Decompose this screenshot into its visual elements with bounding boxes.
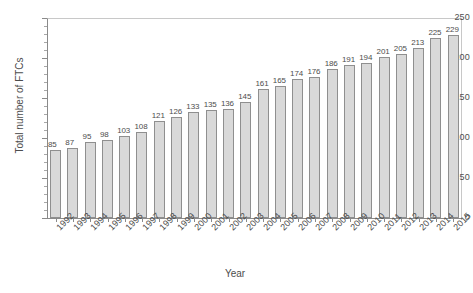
bar-value-label: 108 (134, 123, 147, 131)
bar-value-label: 174 (290, 70, 303, 78)
bar[interactable] (344, 65, 355, 218)
bar-value-label: 165 (273, 77, 286, 85)
bar-value-label: 126 (169, 108, 182, 116)
bar-value-label: 121 (152, 112, 165, 120)
bar-group[interactable]: 201 (376, 18, 393, 218)
bar-value-label: 213 (411, 39, 424, 47)
bar-value-label: 136 (221, 100, 234, 108)
x-axis-title: Year (0, 268, 470, 279)
bar[interactable] (413, 48, 424, 218)
bar-group[interactable]: 98 (99, 18, 116, 218)
bar[interactable] (223, 109, 234, 218)
bar-value-label: 225 (428, 29, 441, 37)
bar[interactable] (171, 117, 182, 218)
bar-group[interactable]: 121 (151, 18, 168, 218)
bar-group[interactable]: 136 (220, 18, 237, 218)
bar-value-label: 191 (342, 56, 355, 64)
bar[interactable] (275, 86, 286, 218)
y-axis-title: Total number of FTCs (14, 16, 25, 196)
bar[interactable] (102, 140, 113, 218)
bar[interactable] (240, 102, 251, 218)
bar[interactable] (430, 38, 441, 218)
bar[interactable] (136, 132, 147, 218)
bar[interactable] (206, 110, 217, 218)
bar-value-label: 85 (48, 141, 57, 149)
bar-value-label: 87 (65, 139, 74, 147)
bar[interactable] (188, 112, 199, 218)
bar[interactable] (154, 121, 165, 218)
bar-value-label: 186 (325, 60, 338, 68)
bar-value-label: 194 (359, 54, 372, 62)
bar-value-label: 176 (307, 68, 320, 76)
bar-group[interactable]: 135 (203, 18, 220, 218)
bar-group[interactable]: 174 (289, 18, 306, 218)
bar[interactable] (258, 89, 269, 218)
bar-value-label: 145 (238, 93, 251, 101)
bar-group[interactable]: 205 (393, 18, 410, 218)
bar[interactable] (361, 63, 372, 218)
bar-group[interactable]: 133 (185, 18, 202, 218)
bar-value-label: 201 (377, 48, 390, 56)
bar-group[interactable]: 87 (64, 18, 81, 218)
bar-group[interactable]: 161 (255, 18, 272, 218)
bar-group[interactable]: 191 (341, 18, 358, 218)
bars-layer: 8587959810310812112613313513614516116517… (47, 18, 462, 218)
bar-group[interactable]: 85 (47, 18, 64, 218)
bar-group[interactable]: 108 (133, 18, 150, 218)
bar-group[interactable]: 165 (272, 18, 289, 218)
bar[interactable] (309, 77, 320, 218)
bar-group[interactable]: 229 (445, 18, 462, 218)
bar-group[interactable]: 126 (168, 18, 185, 218)
bar[interactable] (292, 79, 303, 218)
bar-value-label: 161 (256, 80, 269, 88)
bar[interactable] (327, 69, 338, 218)
bar-value-label: 98 (100, 131, 109, 139)
bar[interactable] (396, 54, 407, 218)
bar-value-label: 133 (186, 103, 199, 111)
bar[interactable] (119, 136, 130, 218)
bar-group[interactable]: 194 (358, 18, 375, 218)
bar-value-label: 95 (83, 133, 92, 141)
bar[interactable] (50, 150, 61, 218)
bar[interactable] (85, 142, 96, 218)
bar-group[interactable]: 145 (237, 18, 254, 218)
bar-group[interactable]: 186 (324, 18, 341, 218)
bar[interactable] (379, 57, 390, 218)
bar-group[interactable]: 103 (116, 18, 133, 218)
y-axis-major-tick (42, 218, 47, 219)
bar-group[interactable]: 213 (410, 18, 427, 218)
bar[interactable] (67, 148, 78, 218)
bar-value-label: 135 (204, 101, 217, 109)
bar-group[interactable]: 176 (306, 18, 323, 218)
bar-group[interactable]: 95 (82, 18, 99, 218)
bar-value-label: 205 (394, 45, 407, 53)
bar[interactable] (448, 35, 459, 218)
bar-value-label: 103 (117, 127, 130, 135)
bar-group[interactable]: 225 (427, 18, 444, 218)
bar-value-label: 229 (446, 26, 459, 34)
